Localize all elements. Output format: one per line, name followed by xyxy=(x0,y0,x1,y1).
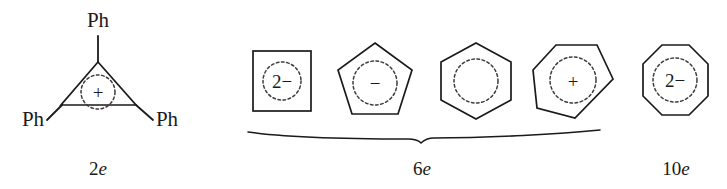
structure-cyclopentadienyl-anion: − xyxy=(338,43,412,114)
charge-symbol-heptagon: + xyxy=(568,71,579,92)
aromatic-dashed-circle-hexagon xyxy=(454,59,498,103)
curly-brace-path xyxy=(248,130,600,143)
electron-count-2e-number: 2 xyxy=(89,158,99,179)
electron-count-6e-unit: e xyxy=(423,158,431,179)
chemistry-figure: Ph Ph Ph + 2− − xyxy=(0,0,727,189)
electron-count-2e: 2e xyxy=(89,158,107,179)
charge-symbol-octagon: 2− xyxy=(665,70,685,91)
structure-tropylium-cation: + xyxy=(533,45,613,118)
electron-count-6e-number: 6 xyxy=(413,158,423,179)
electron-count-10e-unit: e xyxy=(681,158,689,179)
figure-canvas: Ph Ph Ph + 2− − xyxy=(0,0,727,189)
electron-count-10e: 10e xyxy=(662,158,689,179)
charge-symbol-square: 2− xyxy=(272,71,292,92)
structure-benzene xyxy=(441,43,511,119)
bond-left xyxy=(47,105,62,120)
hexagon-ring-outline xyxy=(441,43,511,119)
charge-symbol-triangle: + xyxy=(93,82,104,103)
substituent-label-left: Ph xyxy=(22,107,45,131)
structure-triphenylcyclopropenyl-cation: Ph Ph Ph + xyxy=(22,8,179,131)
substituent-label-right: Ph xyxy=(156,107,179,131)
brace-six-electron-group xyxy=(248,130,600,143)
electron-count-6e: 6e xyxy=(413,158,431,179)
structure-cyclooctatetraenyl-dianion: 2− xyxy=(643,45,708,115)
electron-count-2e-unit: e xyxy=(99,158,107,179)
charge-symbol-pentagon: − xyxy=(370,73,381,94)
electron-count-10e-number: 10 xyxy=(662,158,681,179)
structure-cyclobutadienyl-dianion: 2− xyxy=(253,51,311,111)
bond-right xyxy=(136,105,153,120)
substituent-label-top: Ph xyxy=(87,8,110,32)
